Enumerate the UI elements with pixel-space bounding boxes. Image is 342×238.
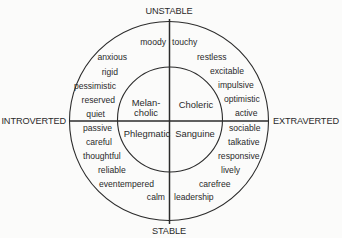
trait-leadership: leadership	[174, 192, 214, 202]
trait-optimistic: optimistic	[224, 94, 261, 104]
trait-reserved: reserved	[82, 95, 116, 105]
temperament-choleric: Choleric	[179, 99, 214, 110]
trait-passive: passive	[83, 123, 112, 133]
temperament-phlegmatic: Phlegmatic	[124, 128, 171, 139]
axis-label-introverted: INTROVERTED	[1, 116, 66, 126]
trait-talkative: talkative	[228, 137, 260, 147]
trait-quiet: quiet	[86, 109, 105, 119]
trait-reliable: reliable	[98, 165, 126, 175]
trait-carefree: carefree	[199, 179, 231, 189]
trait-pessimistic: pessimistic	[74, 81, 117, 91]
trait-rigid: rigid	[102, 67, 118, 77]
trait-responsive: responsive	[218, 151, 260, 161]
trait-restless: restless	[197, 52, 227, 62]
axis-label-extraverted: EXTRAVERTED	[273, 116, 339, 126]
axis-label-stable: STABLE	[152, 226, 186, 236]
temperament-melancholic-line2: cholic	[134, 107, 158, 118]
temperament-diagram: UNSTABLE STABLE INTROVERTED EXTRAVERTED …	[0, 0, 342, 238]
axis-label-unstable: UNSTABLE	[145, 6, 192, 16]
trait-anxious: anxious	[97, 52, 127, 62]
trait-eventempered: eventempered	[99, 179, 154, 189]
trait-moody: moody	[140, 37, 166, 47]
trait-calm: calm	[147, 192, 165, 202]
trait-touchy: touchy	[172, 37, 198, 47]
trait-thoughtful: thoughtful	[83, 151, 121, 161]
trait-active: active	[235, 108, 258, 118]
trait-careful: careful	[86, 137, 112, 147]
temperament-sanguine: Sanguine	[175, 128, 215, 139]
trait-impulsive: impulsive	[218, 80, 254, 90]
trait-lively: lively	[221, 165, 241, 175]
trait-sociable: sociable	[229, 123, 261, 133]
trait-excitable: excitable	[210, 66, 244, 76]
